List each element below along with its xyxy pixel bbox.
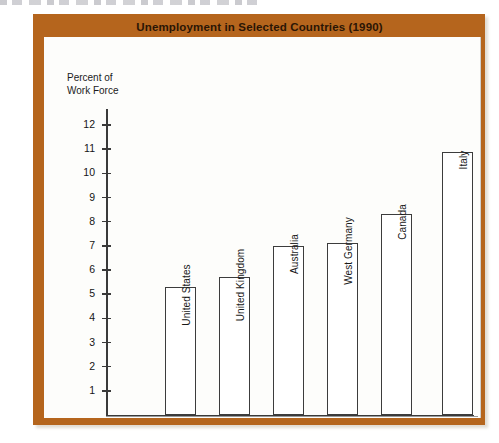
bar-label-united-states: United States <box>181 264 192 325</box>
y-axis-tick-5 <box>102 293 111 295</box>
bar-label-italy: Italy <box>458 150 469 169</box>
y-axis-tick-label-6: 6 <box>69 263 95 275</box>
bar-label-west-germany: West Germany <box>343 218 354 286</box>
y-axis-tick-2 <box>102 366 111 368</box>
bar-united-kingdom: United Kingdom <box>219 277 250 415</box>
y-axis-tick-label-9: 9 <box>69 191 95 203</box>
y-axis-tick-11 <box>102 148 111 150</box>
y-axis-tick-label-4: 4 <box>69 311 95 323</box>
y-axis-tick-label-10: 10 <box>69 166 95 178</box>
y-axis-tick-10 <box>102 173 111 175</box>
chart-plot-panel: Percent of Work Force 123456789101112 Un… <box>44 37 481 418</box>
bar-label-wrap: United States <box>166 288 195 414</box>
y-axis-tick-9 <box>102 197 111 199</box>
y-axis-tick-label-7: 7 <box>69 239 95 251</box>
chart-title: Unemployment in Selected Countries (1990… <box>136 21 382 33</box>
bar-label-united-kingdom: United Kingdom <box>235 249 246 322</box>
bar-label-wrap: Australia <box>274 247 303 414</box>
bar-label-wrap: Canada <box>382 215 411 414</box>
bar-united-states: United States <box>165 287 196 415</box>
chart-title-bar: Unemployment in Selected Countries (1990… <box>44 17 475 37</box>
plot-area: 123456789101112 United StatesUnited King… <box>44 37 481 418</box>
y-axis-tick-label-11: 11 <box>69 142 95 154</box>
bar-italy: Italy <box>442 152 473 415</box>
y-axis-tick-12 <box>102 124 111 126</box>
y-axis-tick-8 <box>102 221 111 223</box>
bar-label-wrap: Italy <box>443 153 472 414</box>
scan-artifact-strip <box>0 0 260 5</box>
y-axis-tick-label-5: 5 <box>69 287 95 299</box>
chart-figure-frame: Unemployment in Selected Countries (1990… <box>33 14 485 425</box>
y-axis-tick-label-2: 2 <box>69 360 95 372</box>
bar-canada: Canada <box>381 214 412 415</box>
y-axis-tick-3 <box>102 342 111 344</box>
y-axis-tick-label-3: 3 <box>69 336 95 348</box>
y-axis-tick-4 <box>102 318 111 320</box>
y-axis-tick-label-8: 8 <box>69 215 95 227</box>
y-axis-tick-label-1: 1 <box>69 384 95 396</box>
y-axis-tick-label-12: 12 <box>69 118 95 130</box>
bar-west-germany: West Germany <box>327 243 358 415</box>
bar-label-canada: Canada <box>397 205 408 241</box>
y-axis-tick-6 <box>102 269 111 271</box>
bar-label-wrap: United Kingdom <box>220 278 249 414</box>
bar-australia: Australia <box>273 246 304 415</box>
y-axis-line <box>106 109 108 416</box>
y-axis-tick-1 <box>102 390 111 392</box>
x-axis-extension-line <box>106 416 478 417</box>
bar-label-australia: Australia <box>289 234 300 274</box>
bar-label-wrap: West Germany <box>328 244 357 414</box>
y-axis-tick-7 <box>102 245 111 247</box>
